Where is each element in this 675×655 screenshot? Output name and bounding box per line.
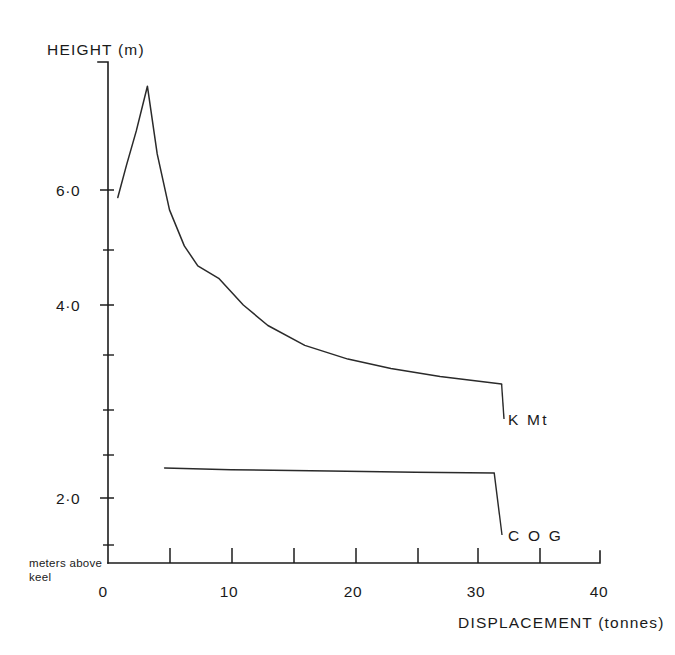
chart-figure: HEIGHT (m) DISPLACEMENT (tonnes) 6·0 4·0… [0,0,675,655]
x-tick-label-20: 20 [344,583,362,600]
series-label-kmt: K Mt [508,411,549,428]
x-tick-label-10: 10 [220,583,238,600]
x-axis-line [108,551,600,563]
series-leader-kmt [502,384,504,419]
x-tick-label-30: 30 [467,583,485,600]
y-axis-line [98,62,108,563]
x-tick-label-40: 40 [590,583,608,600]
x-axis-title: DISPLACEMENT (tonnes) [458,614,665,631]
y-tick-label-2: 2·0 [56,490,80,507]
hydrostatic-curves-plot: HEIGHT (m) DISPLACEMENT (tonnes) 6·0 4·0… [0,0,675,655]
origin-note-line1: meters above [29,557,102,569]
y-axis-title: HEIGHT (m) [47,41,145,58]
y-tick-label-6: 6·0 [56,182,80,199]
x-tick-label-0: 0 [98,583,107,600]
series-curve-cog [165,468,495,473]
y-axis-major-ticks [100,190,114,498]
series-leader-cog [494,473,502,535]
y-tick-label-4: 4·0 [56,297,80,314]
series-label-cog: C O G [508,527,563,544]
origin-note-line2: keel [29,571,51,583]
x-axis-major-ticks [170,548,540,563]
series-curve-kmt [118,86,502,384]
